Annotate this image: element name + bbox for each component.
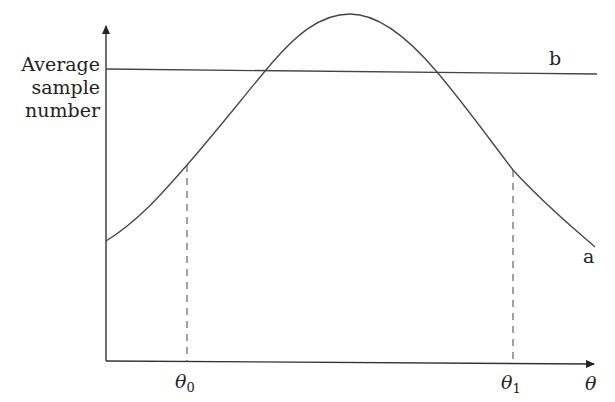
y-axis-label: Average sample number xyxy=(4,53,100,122)
line-b xyxy=(106,69,597,74)
theta1-subscript: 1 xyxy=(512,381,520,396)
y-axis-label-line3: number xyxy=(4,99,100,122)
curve-a-label: a xyxy=(583,245,594,267)
line-b-label-text: b xyxy=(549,47,561,69)
theta0-symbol: θ xyxy=(175,370,186,392)
y-axis-label-line2: sample xyxy=(4,76,100,99)
y-axis-label-line1: Average xyxy=(4,53,100,76)
line-b-label: b xyxy=(549,47,561,69)
theta1-tick-label: θ1 xyxy=(501,371,521,396)
x-axis-label-text: θ xyxy=(585,372,596,394)
curve-a xyxy=(106,14,595,247)
x-axis-label: θ xyxy=(585,372,596,394)
curve-a-label-text: a xyxy=(583,245,594,267)
theta0-tick-label: θ0 xyxy=(175,370,195,395)
theta1-symbol: θ xyxy=(501,371,512,393)
theta0-subscript: 0 xyxy=(186,380,194,395)
x-axis xyxy=(106,361,594,364)
